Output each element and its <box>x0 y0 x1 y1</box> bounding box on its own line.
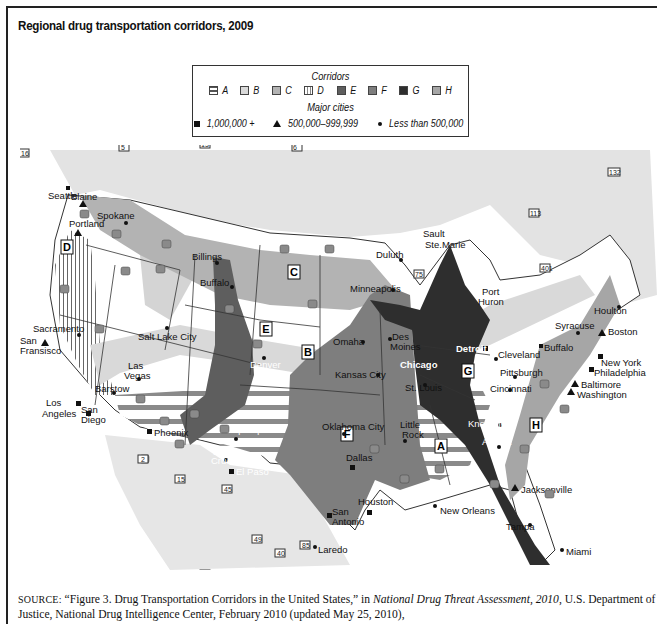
svg-text:85: 85 <box>302 542 310 549</box>
corridor-label-h: H <box>530 418 542 432</box>
svg-text:Duluth: Duluth <box>376 249 403 260</box>
legend-city-large: 1,000,000 + <box>194 118 257 129</box>
triangle-marker-icon <box>273 120 281 127</box>
source-publication: National Drug Threat Assessment, 2010 <box>373 593 559 606</box>
corridor-label-c: C <box>288 265 300 279</box>
svg-text:Antonio: Antonio <box>332 516 364 527</box>
svg-text:C: C <box>290 266 298 278</box>
svg-text:6: 6 <box>293 145 297 151</box>
svg-text:Oklahoma City: Oklahoma City <box>322 421 385 432</box>
svg-text:Phoenix: Phoenix <box>154 427 189 438</box>
legend-item-e: E <box>337 85 357 96</box>
legend-item-f: F <box>368 85 387 96</box>
legend-corridor-row: A B C D E F G H <box>193 85 468 96</box>
svg-text:Cleveland: Cleveland <box>498 349 540 360</box>
svg-text:Dallas: Dallas <box>346 452 373 463</box>
svg-text:A: A <box>437 440 445 452</box>
corridor-label-e: E <box>260 322 272 336</box>
legend-corridors-heading: Corridors <box>210 70 452 82</box>
swatch-a-icon <box>209 86 218 95</box>
source-text-1: “Figure 3. Drug Transportation Corridors… <box>62 593 373 606</box>
swatch-e-icon <box>337 86 346 95</box>
svg-text:Sacramento: Sacramento <box>33 323 84 334</box>
buffalo-wy-marker <box>230 285 234 289</box>
svg-text:Tampa: Tampa <box>506 521 535 532</box>
corridor-label-d: D <box>61 240 73 254</box>
svg-text:Cincinnati: Cincinnati <box>490 383 532 394</box>
swatch-b-icon <box>240 86 249 95</box>
source-label: SOURCE: <box>18 594 62 605</box>
svg-text:Miami: Miami <box>566 546 591 557</box>
svg-text:St. Louis: St. Louis <box>405 382 442 393</box>
svg-text:Sault: Sault <box>423 228 445 239</box>
svg-text:15: 15 <box>177 476 185 483</box>
legend-item-d: D <box>304 85 324 96</box>
legend-city-medium: 500,000–999,999 <box>273 118 362 129</box>
svg-text:45: 45 <box>224 486 232 493</box>
svg-text:Vegas: Vegas <box>124 370 151 381</box>
svg-text:G: G <box>464 365 473 377</box>
corridor-map: D C E B G F A H Blaine Seattle Spokane P… <box>20 145 657 570</box>
svg-text:49: 49 <box>254 536 262 543</box>
swatch-c-icon <box>272 86 281 95</box>
svg-text:113: 113 <box>530 210 541 217</box>
svg-text:Houlton: Houlton <box>594 305 627 316</box>
legend-item-c: C <box>272 85 292 96</box>
svg-text:Buffalo: Buffalo <box>544 342 573 353</box>
svg-text:Portland: Portland <box>69 218 104 229</box>
square-marker-icon <box>194 121 200 127</box>
svg-text:Moines: Moines <box>390 341 421 352</box>
legend-item-h: H <box>432 85 452 96</box>
source-citation: SOURCE: “Figure 3. Drug Transportation C… <box>18 592 657 624</box>
svg-text:132: 132 <box>609 169 621 176</box>
svg-text:Washington: Washington <box>577 389 627 400</box>
corridor-label-g: G <box>462 364 474 378</box>
svg-text:2: 2 <box>141 456 145 463</box>
svg-text:Ste.Marie: Ste.Marie <box>425 239 466 250</box>
svg-text:Huron: Huron <box>478 296 504 307</box>
legend-item-b: B <box>240 85 260 96</box>
svg-text:E: E <box>262 323 269 335</box>
svg-text:Atlanta: Atlanta <box>482 436 512 447</box>
svg-text:Cruces: Cruces <box>211 455 241 466</box>
svg-text:13: 13 <box>201 145 209 148</box>
swatch-h-icon <box>432 86 441 95</box>
svg-text:Angeles: Angeles <box>42 408 77 419</box>
spokane-marker <box>124 221 128 225</box>
map-legend: Corridors A B C D E F G H Major cities 1… <box>192 65 469 137</box>
svg-text:75: 75 <box>415 271 423 278</box>
svg-text:El Paso: El Paso <box>236 466 269 477</box>
svg-text:16: 16 <box>21 150 29 157</box>
svg-text:Los: Los <box>46 397 62 408</box>
svg-text:Laredo: Laredo <box>318 544 348 555</box>
svg-text:Seattle: Seattle <box>48 190 78 201</box>
legend-city-row: 1,000,000 + 500,000–999,999 Less than 50… <box>193 118 468 129</box>
swatch-f-icon <box>368 86 377 95</box>
svg-text:Denver: Denver <box>250 359 281 370</box>
svg-text:Barstow: Barstow <box>95 383 129 394</box>
legend-item-g: G <box>399 85 420 96</box>
svg-text:B: B <box>304 346 312 358</box>
svg-text:Minneapolis: Minneapolis <box>350 283 401 294</box>
svg-text:Kansas City: Kansas City <box>335 369 386 380</box>
svg-text:Houston: Houston <box>358 496 393 507</box>
svg-text:Chicago: Chicago <box>400 359 438 370</box>
svg-text:40: 40 <box>277 550 285 557</box>
svg-text:401: 401 <box>541 265 553 272</box>
swatch-d-icon <box>304 86 313 95</box>
svg-text:Diego: Diego <box>81 414 106 425</box>
corridor-label-a: A <box>435 439 447 453</box>
svg-text:Buffalo: Buffalo <box>200 277 229 288</box>
svg-text:H: H <box>532 419 540 431</box>
svg-text:Rock: Rock <box>402 429 424 440</box>
svg-text:5: 5 <box>121 145 125 151</box>
svg-text:Salt Lake City: Salt Lake City <box>138 331 197 342</box>
svg-text:Knoxville: Knoxville <box>468 418 506 429</box>
svg-text:Omaha: Omaha <box>333 336 365 347</box>
legend-city-small: Less than 500,000 <box>378 118 467 129</box>
figure-title: Regional drug transportation corridors, … <box>18 18 253 33</box>
legend-item-a: A <box>209 85 229 96</box>
svg-text:D: D <box>63 241 71 253</box>
svg-text:Fransisco: Fransisco <box>20 345 61 356</box>
legend-cities-heading: Major cities <box>210 101 452 113</box>
